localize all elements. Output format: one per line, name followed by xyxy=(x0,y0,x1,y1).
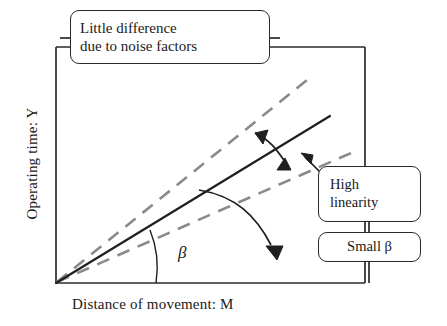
linearity-pointer-arrow xyxy=(301,153,320,172)
ideal-relation-solid-line xyxy=(56,116,330,283)
beta-angle-symbol: β xyxy=(178,243,186,263)
beta-angle-arc xyxy=(150,230,157,283)
callout-noise-line-2: due to noise factors xyxy=(80,37,197,55)
callout-noise-difference[interactable]: Little difference due to noise factors xyxy=(70,10,270,64)
callout-linearity-line-1: High xyxy=(330,176,359,194)
arrowhead-down-right xyxy=(277,158,291,170)
y-axis-label: Operating time: Y xyxy=(24,94,41,234)
callout-noise-line-1: Little difference xyxy=(80,19,177,37)
x-axis-label: Distance of movement: M xyxy=(72,296,234,313)
noise-lower-dashed-line xyxy=(57,150,358,282)
callout-high-linearity[interactable]: High linearity xyxy=(318,166,421,222)
figure-canvas: Operating time: Y Distance of movement: … xyxy=(0,0,447,326)
arrowhead-up-left xyxy=(255,130,268,144)
callout-small-beta[interactable]: Small β xyxy=(318,232,421,262)
callout-linearity-line-2: linearity xyxy=(330,194,378,212)
arrowhead-up-left-small xyxy=(301,153,313,164)
arrowhead-down xyxy=(266,246,283,260)
callout-smallbeta-line-1: Small β xyxy=(347,238,392,256)
